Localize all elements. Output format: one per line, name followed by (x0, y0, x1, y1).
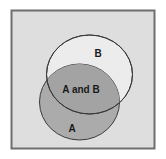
set-b-label: B (94, 48, 101, 59)
venn-diagram: B A and B A (0, 0, 166, 159)
intersection-label: A and B (62, 84, 99, 95)
set-a-label: A (68, 123, 75, 134)
